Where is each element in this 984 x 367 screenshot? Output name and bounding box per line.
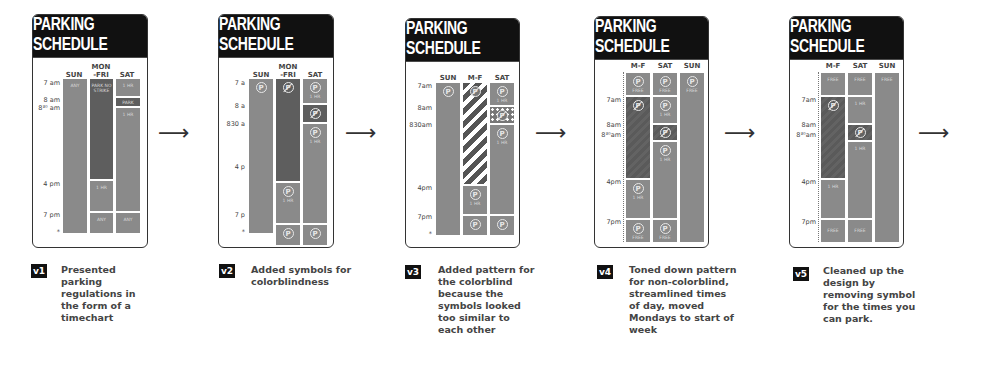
mf-any-block: ANY	[90, 213, 113, 233]
column-header: SAT	[848, 62, 872, 70]
version-caption: Added pattern for the colorblind because…	[438, 264, 538, 336]
time-tick: 4 pm	[33, 180, 60, 188]
time-tick: *	[219, 228, 245, 236]
mf-free-block: PFREE	[626, 220, 650, 242]
mf-free-block: FREE	[821, 73, 845, 95]
parking-icon: P	[310, 127, 321, 138]
column-header: SAT	[490, 74, 514, 82]
time-tick: 8 a	[219, 102, 245, 110]
sat-1hr-block: P1 HR	[653, 97, 677, 123]
column-header: SAT	[653, 62, 677, 70]
time-tick: 7 am	[33, 79, 60, 87]
no-parking-icon: P	[310, 108, 321, 119]
mf-1hr-block: P1 HR	[626, 180, 650, 218]
no-parking-icon: P	[828, 100, 839, 111]
mf-any-block: P	[276, 225, 300, 245]
time-tick: 4 p	[219, 163, 245, 171]
version-badge: v4	[597, 265, 613, 279]
parking-icon: P	[660, 223, 671, 234]
version-caption: Toned down pattern for non-colorblind, s…	[629, 264, 739, 336]
mf-free-block: PFREE	[626, 73, 650, 95]
time-axis	[818, 72, 819, 242]
column-header: M-F	[626, 62, 650, 70]
parking-icon: P	[660, 100, 671, 111]
schedule-card-v5: PARKING SCHEDULE M-F SAT SUN 7am 8am 8³⁰…	[789, 16, 904, 248]
mf-1hr-block: 1 HR	[821, 180, 845, 218]
sat-1hr-block: P1 HR	[303, 124, 327, 223]
time-tick: 7pm	[595, 218, 621, 226]
time-tick: 7 pm	[33, 211, 60, 219]
no-parking-icon: P	[283, 82, 294, 93]
time-tick: 7pm	[790, 218, 816, 226]
sat-any-block: ANY	[116, 213, 140, 233]
version-caption: Presented parking regulations in the for…	[61, 264, 141, 324]
column-header: SAT	[115, 71, 139, 79]
parking-icon: P	[310, 82, 321, 93]
time-tick: 7 a	[219, 79, 245, 87]
parking-icon: P	[633, 183, 644, 194]
parking-icon: P	[497, 86, 508, 97]
sat-park-block: PARK	[116, 98, 140, 106]
arrow-icon: ⟶	[345, 122, 377, 144]
column-header: MON -FRI	[89, 63, 113, 79]
time-tick: *	[33, 228, 60, 236]
version-badge: v3	[405, 265, 421, 279]
column-header: SUN	[249, 71, 273, 79]
parking-icon: P	[470, 219, 481, 230]
column-header: M-F	[821, 62, 845, 70]
parking-icon: P	[633, 76, 644, 87]
time-tick: 830 a	[219, 120, 245, 128]
time-tick: 8³⁰ am	[33, 104, 60, 112]
mf-free-block: FREE	[821, 220, 845, 242]
card-title: PARKING SCHEDULE	[219, 14, 333, 58]
parking-icon: P	[660, 145, 671, 156]
sat-1hr-block: P1 HR	[490, 83, 514, 105]
mf-1hr-block: 1 HR	[90, 181, 113, 211]
mf-no-parking-block: P	[821, 97, 845, 178]
sat-1hr-block: 1 HR	[848, 97, 872, 123]
time-tick: 8am	[595, 121, 621, 129]
column-header: SUN	[680, 62, 704, 70]
time-tick: 7am	[406, 82, 432, 90]
mf-no-parking-block: P	[276, 79, 300, 181]
card-title: PARKING SCHEDULE	[33, 14, 147, 58]
column-header: MON -FRI	[276, 63, 300, 79]
time-tick: 7am	[790, 96, 816, 104]
no-parking-icon: P	[660, 127, 671, 138]
version-caption: Added symbols for colorblindness	[251, 264, 361, 288]
no-parking-icon: P	[470, 86, 481, 97]
sat-no-parking-block: P	[848, 125, 872, 140]
parking-icon: P	[633, 223, 644, 234]
schedule-card-v1: PARKING SCHEDULE SUN MON -FRI SAT 7 am 8…	[32, 14, 148, 248]
time-tick: 8³⁰am	[790, 131, 816, 139]
time-tick: 8³⁰am	[595, 131, 621, 139]
time-tick: 830am	[406, 121, 432, 129]
time-tick: 8 am	[33, 96, 60, 104]
parking-icon: P	[497, 219, 508, 230]
version-caption: Cleaned up the design by removing symbol…	[823, 265, 918, 325]
parking-icon: P	[256, 82, 267, 93]
time-tick: 8am	[406, 104, 432, 112]
schedule-card-v2: PARKING SCHEDULE SUN MON -FRI SAT 7 a 8 …	[218, 14, 334, 248]
sat-1hr-block: 1 HR	[116, 108, 140, 211]
sun-free-block: PFREE	[680, 73, 704, 242]
parking-icon: P	[470, 189, 481, 200]
card-title: PARKING SCHEDULE	[406, 18, 519, 62]
time-tick: 4pm	[595, 178, 621, 186]
parking-icon: P	[443, 86, 454, 97]
parking-icon: P	[497, 128, 508, 139]
sat-free-block: PFREE	[653, 220, 677, 242]
sun-block: P	[249, 79, 273, 233]
version-badge: v1	[31, 264, 47, 278]
sun-free-block: FREE	[875, 73, 899, 242]
time-tick: 4pm	[406, 184, 432, 192]
card-title: PARKING SCHEDULE	[595, 16, 708, 60]
mf-no-parking-block: PARK NO STRIKE	[90, 79, 113, 179]
version-badge: v2	[219, 264, 235, 278]
column-header: SAT	[303, 71, 327, 79]
parking-icon: P	[660, 76, 671, 87]
time-tick: 7 p	[219, 211, 245, 219]
mf-any-block: P	[463, 216, 487, 235]
arrow-icon: ⟶	[724, 122, 756, 144]
sun-block: P	[436, 83, 460, 235]
